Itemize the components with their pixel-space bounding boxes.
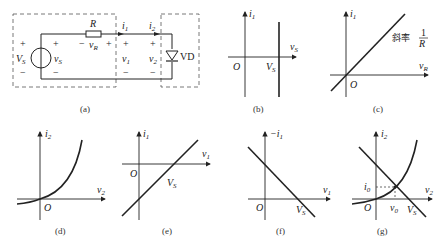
- svg-text:i0: i0: [364, 181, 371, 194]
- svg-text:v2: v2: [425, 184, 433, 197]
- panel-f-plot: −i1 v1 O VS (f): [248, 128, 331, 236]
- svg-text:(e): (e): [162, 226, 172, 236]
- operating-point: [394, 186, 397, 189]
- diode-curve: [17, 140, 82, 204]
- svg-text:vS: vS: [290, 41, 298, 54]
- resistor-icon: [86, 31, 101, 37]
- svg-text:−: −: [150, 67, 156, 78]
- svg-text:+: +: [106, 38, 112, 49]
- svg-text:−: −: [53, 67, 59, 78]
- svg-text:−: −: [20, 67, 26, 78]
- svg-text:R: R: [418, 38, 425, 49]
- svg-text:i1: i1: [122, 20, 128, 33]
- svg-text:v1: v1: [323, 184, 331, 197]
- diode-icon: [166, 51, 178, 61]
- svg-text:i2: i2: [45, 128, 52, 141]
- svg-text:斜率: 斜率: [392, 32, 410, 43]
- svg-text:i2: i2: [149, 20, 156, 33]
- svg-text:O: O: [364, 202, 371, 213]
- svg-text:v1: v1: [122, 53, 130, 66]
- svg-text:v0: v0: [390, 202, 398, 215]
- svg-text:O: O: [130, 168, 137, 179]
- svg-text:VS: VS: [16, 53, 26, 66]
- svg-text:v2: v2: [97, 184, 105, 197]
- svg-text:i1: i1: [249, 8, 255, 21]
- svg-text:VS: VS: [266, 61, 276, 74]
- panel-g-plot: i2 v2 O i0 v0 VS (g): [352, 128, 433, 236]
- svg-text:+: +: [20, 38, 26, 49]
- svg-text:R: R: [89, 18, 96, 29]
- svg-text:(c): (c): [373, 104, 383, 114]
- svg-text:i1: i1: [143, 128, 149, 141]
- svg-text:v2: v2: [149, 53, 157, 66]
- svg-text:vS: vS: [54, 53, 62, 66]
- svg-text:(g): (g): [377, 226, 388, 236]
- slope-line: [331, 14, 405, 91]
- svg-text:i1: i1: [350, 8, 356, 21]
- svg-text:i2: i2: [381, 128, 388, 141]
- panel-d-plot: i2 v2 O (d): [17, 128, 105, 236]
- svg-text:+: +: [53, 38, 59, 49]
- svg-text:−i1: −i1: [270, 128, 283, 141]
- svg-text:O: O: [350, 79, 357, 90]
- panel-a-circuit: + VS − + vS − R − vR + i1 i2 + v1 − + v2…: [13, 14, 199, 114]
- svg-text:v1: v1: [202, 148, 210, 161]
- source-box: [13, 14, 116, 87]
- svg-text:−: −: [123, 67, 129, 78]
- svg-text:(d): (d): [55, 226, 66, 236]
- i1-arrow-icon: [118, 32, 124, 36]
- svg-text:+: +: [150, 38, 156, 49]
- panel-b-plot: i1 vS O VS (b): [228, 8, 298, 114]
- svg-text:O: O: [233, 61, 240, 72]
- svg-text:VS: VS: [167, 177, 177, 190]
- svg-text:+: +: [123, 38, 129, 49]
- svg-text:vR: vR: [89, 39, 98, 52]
- panel-c-plot: i1 vR O 斜率 1 R (c): [330, 8, 428, 114]
- svg-text:O: O: [44, 202, 51, 213]
- svg-text:O: O: [256, 202, 263, 213]
- svg-text:1: 1: [421, 27, 426, 38]
- svg-text:vR: vR: [419, 60, 428, 73]
- svg-text:(f): (f): [276, 226, 285, 236]
- svg-text:(b): (b): [253, 104, 264, 114]
- svg-text:−: −: [79, 38, 85, 49]
- svg-text:VD: VD: [180, 51, 194, 62]
- panel-e-plot: i1 v1 O VS (e): [122, 128, 210, 236]
- figure-canvas: + VS − + vS − R − vR + i1 i2 + v1 − + v2…: [0, 0, 439, 245]
- svg-text:(a): (a): [80, 104, 90, 114]
